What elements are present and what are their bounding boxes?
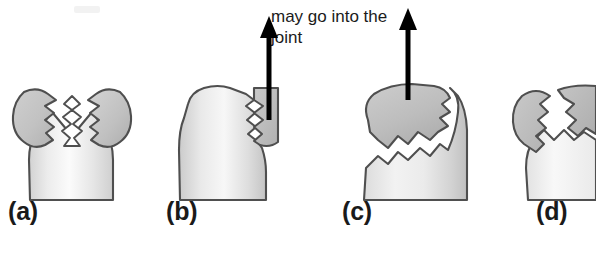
- panel-label-d: (d): [536, 199, 567, 224]
- bone-main: [179, 86, 266, 200]
- fracture-figure: may go into the joint: [0, 0, 596, 253]
- panel-b: (b): [150, 0, 310, 253]
- panel-label-b: (b): [166, 199, 197, 224]
- bone-fragment: [254, 88, 278, 146]
- panel-label-c: (c): [342, 199, 372, 224]
- panel-c: (c): [330, 0, 500, 253]
- panel-label-a: (a): [8, 199, 38, 224]
- bone-head-fragment-right: [558, 86, 596, 137]
- panel-d: (d): [500, 0, 596, 253]
- panel-a: (a): [0, 0, 150, 253]
